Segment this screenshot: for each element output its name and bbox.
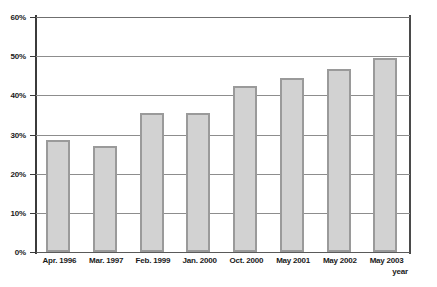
- bar-slot: [130, 17, 177, 252]
- y-axis-tick-label: 40%: [11, 91, 26, 100]
- bar-chart: 0%10%20%30%40%50%60% year Apr. 1996Mar. …: [0, 0, 437, 287]
- x-axis-tick-label: Oct. 2000: [223, 256, 270, 265]
- x-axis-tick-labels: year Apr. 1996Mar. 1997Feb. 1999Jan. 200…: [36, 256, 410, 286]
- x-axis-tick-label: May 2003: [363, 256, 410, 265]
- bars-group: [36, 17, 410, 252]
- x-axis-tick-label: Feb. 1999: [130, 256, 177, 265]
- axis-baseline: [36, 252, 410, 253]
- x-axis-title: year: [392, 267, 408, 276]
- bar: [280, 78, 304, 252]
- bar: [327, 69, 351, 252]
- bar-slot: [270, 17, 317, 252]
- bar-slot: [83, 17, 130, 252]
- bar: [233, 86, 257, 252]
- bar: [93, 146, 117, 252]
- x-axis-tick-label: May 2002: [317, 256, 364, 265]
- bar-slot: [317, 17, 364, 252]
- x-axis-tick-label: Apr. 1996: [36, 256, 83, 265]
- x-axis-label-slot: May 2002: [317, 256, 364, 265]
- x-axis-label-slot: Mar. 1997: [83, 256, 130, 265]
- x-axis-tick-label: Jan. 2000: [176, 256, 223, 265]
- y-axis-tick-label: 20%: [11, 169, 26, 178]
- bar: [46, 140, 70, 252]
- bar: [186, 113, 210, 252]
- x-axis-label-slot: Apr. 1996: [36, 256, 83, 265]
- y-axis-tick-label: 0%: [15, 248, 26, 257]
- y-axis-tick-label: 60%: [11, 13, 26, 22]
- y-axis-tick: [30, 252, 36, 253]
- bar-slot: [36, 17, 83, 252]
- bar-slot: [176, 17, 223, 252]
- x-axis-label-slot: Oct. 2000: [223, 256, 270, 265]
- x-axis-tick-label: Mar. 1997: [83, 256, 130, 265]
- x-axis-tick-label: May 2001: [270, 256, 317, 265]
- x-axis-label-slot: Feb. 1999: [130, 256, 177, 265]
- bar: [373, 58, 397, 252]
- bar-slot: [363, 17, 410, 252]
- y-axis-tick-label: 50%: [11, 52, 26, 61]
- x-axis-label-slot: Jan. 2000: [176, 256, 223, 265]
- bar-slot: [223, 17, 270, 252]
- x-axis-label-slot: May 2003: [363, 256, 410, 265]
- y-axis-tick-label: 10%: [11, 208, 26, 217]
- x-axis-label-slot: May 2001: [270, 256, 317, 265]
- y-axis-tick-label: 30%: [11, 130, 26, 139]
- plot-area: [36, 17, 410, 252]
- bar: [140, 113, 164, 252]
